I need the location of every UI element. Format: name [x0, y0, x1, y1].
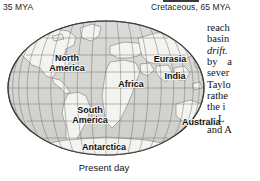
body-text-line: reach	[207, 22, 260, 33]
map-label-north-america-line1: North	[55, 53, 79, 63]
body-text-line-paragraph-start: L	[207, 113, 260, 124]
body-text-line: rathe	[207, 90, 260, 101]
body-text-line: basin	[207, 33, 260, 44]
land-siberia	[182, 30, 206, 48]
figure-page: 35 MYA Cretaceous, 65 MYA	[0, 0, 260, 181]
map-label-north-america: North America	[39, 54, 95, 73]
map-label-africa: Africa	[110, 80, 152, 90]
map-label-north-america-line2: America	[49, 63, 85, 73]
body-text-column: reach basin drift. by a sever Taylo rath…	[207, 22, 260, 181]
map-label-eurasia: Eurasia	[147, 55, 193, 65]
body-text-line: the i	[207, 101, 260, 112]
body-text-line: by a	[207, 56, 260, 67]
map-label-antarctica: Antarctica	[73, 143, 135, 153]
body-text-line: sever	[207, 67, 260, 78]
map-label-india: India	[158, 72, 192, 82]
header-left-label: 35 MYA	[3, 2, 33, 12]
map-label-south-america-line2: America	[72, 115, 108, 125]
world-map-svg	[6, 18, 206, 158]
figure-caption: Present day	[0, 162, 208, 174]
map-label-south-america-line1: South	[77, 105, 103, 115]
body-text-line-emphasis: drift.	[207, 45, 260, 56]
world-map-figure: North America South America Africa Euras…	[0, 16, 210, 181]
body-text-line: Taylo	[207, 79, 260, 90]
header-right-label: Cretaceous, 65 MYA	[151, 2, 231, 12]
globe-illustration: North America South America Africa Euras…	[6, 18, 206, 158]
map-label-south-america: South America	[61, 106, 119, 125]
body-text-line: and A	[207, 124, 260, 135]
